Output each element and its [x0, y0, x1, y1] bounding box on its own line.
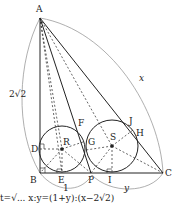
label-f: F [78, 118, 84, 128]
measure-ac: x [139, 73, 144, 83]
label-b: B [30, 175, 37, 185]
label-r: R [63, 137, 70, 147]
label-p: P [88, 175, 94, 185]
geometry-figure: A B C D E F G H I J P R S 2√2 x 1 y [0, 0, 178, 203]
label-a: A [35, 4, 43, 14]
label-d: D [31, 144, 38, 154]
caption-equation: t=√... x:y=(1+y):(x−2√2) [0, 193, 178, 203]
measure-pc: y [123, 183, 130, 193]
label-s: S [110, 132, 116, 142]
label-i: I [108, 175, 112, 185]
label-h: H [136, 128, 144, 138]
center-r [60, 147, 64, 151]
center-s [110, 144, 114, 148]
label-g: G [88, 137, 95, 147]
label-c: C [165, 168, 172, 178]
label-j: J [128, 116, 133, 126]
measure-ab: 2√2 [9, 89, 26, 99]
measure-bp: 1 [63, 183, 69, 193]
right-angle-d [40, 144, 44, 149]
